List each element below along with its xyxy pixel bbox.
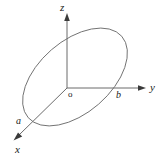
x-axis-group bbox=[14, 88, 68, 141]
point-b-label: b bbox=[116, 90, 121, 100]
x-axis-line bbox=[19, 88, 67, 135]
z-axis-label: z bbox=[60, 2, 64, 13]
ellipse-curve bbox=[5, 9, 146, 145]
z-axis-arrowhead bbox=[64, 13, 70, 21]
x-axis-label: x bbox=[15, 144, 20, 155]
y-axis-label: y bbox=[150, 82, 155, 93]
y-axis-group bbox=[67, 85, 146, 91]
point-a-label: a bbox=[16, 116, 21, 126]
ellipse-group bbox=[5, 9, 146, 145]
z-axis-group bbox=[64, 13, 70, 88]
y-axis-arrowhead bbox=[138, 85, 146, 91]
origin-label: o bbox=[68, 90, 73, 99]
figure-root: z y x o a b bbox=[0, 0, 163, 163]
coordinate-ellipse-diagram bbox=[0, 0, 163, 163]
